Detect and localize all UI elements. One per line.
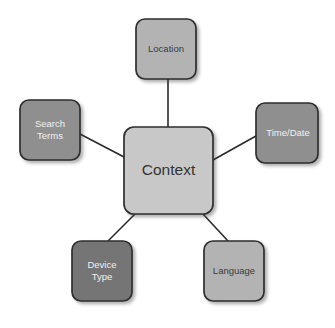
connector-context-device-type bbox=[108, 214, 135, 241]
node-location[interactable]: Location bbox=[136, 19, 196, 79]
node-time-date[interactable]: Time/Date bbox=[256, 103, 318, 163]
node-language-label: Language bbox=[213, 265, 255, 276]
diagram-canvas: Location Search Terms Time/Date Device T… bbox=[0, 0, 335, 328]
node-time-date-label: Time/Date bbox=[266, 127, 309, 138]
connector-context-search-terms bbox=[80, 134, 124, 157]
node-device-type-label-line2: Type bbox=[92, 271, 113, 282]
node-search-terms-label-line1: Search bbox=[35, 118, 65, 129]
node-device-type-label-line1: Device bbox=[87, 259, 116, 270]
node-search-terms[interactable]: Search Terms bbox=[20, 100, 80, 160]
node-device-type[interactable]: Device Type bbox=[72, 241, 132, 301]
node-location-label: Location bbox=[148, 43, 184, 54]
node-context-label: Context bbox=[142, 161, 196, 178]
context-mind-map-diagram: Location Search Terms Time/Date Device T… bbox=[0, 0, 335, 328]
node-search-terms-label-line2: Terms bbox=[37, 130, 63, 141]
connector-context-time-date bbox=[213, 136, 256, 160]
node-language[interactable]: Language bbox=[204, 241, 264, 301]
connector-context-language bbox=[203, 214, 228, 241]
node-context[interactable]: Context bbox=[124, 127, 213, 214]
